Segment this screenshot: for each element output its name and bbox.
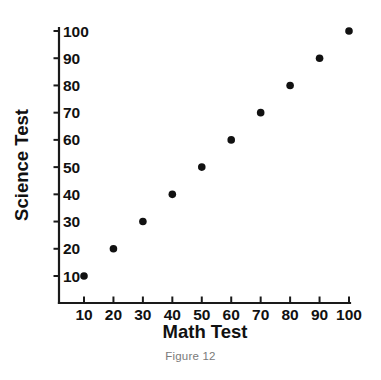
y-tick-label-50: 50 xyxy=(63,159,80,176)
y-axis-tick-labels: 102030405060708090100 xyxy=(63,23,89,285)
data-point-series xyxy=(80,27,353,280)
data-point xyxy=(257,109,265,117)
data-point xyxy=(316,54,324,62)
data-point xyxy=(169,191,177,199)
y-tick-label-30: 30 xyxy=(63,213,80,230)
x-tick-label-20: 20 xyxy=(105,306,122,323)
x-tick-label-80: 80 xyxy=(281,306,298,323)
x-tick-label-30: 30 xyxy=(134,306,151,323)
x-tick-label-90: 90 xyxy=(311,306,328,323)
data-point xyxy=(227,136,235,144)
x-tick-label-70: 70 xyxy=(252,306,269,323)
x-axis-title: Math Test xyxy=(163,321,248,342)
figure-container: 102030405060708090100 102030405060708090… xyxy=(0,0,381,380)
data-point xyxy=(198,163,206,171)
y-tick-label-80: 80 xyxy=(63,77,80,94)
y-tick-label-20: 20 xyxy=(63,240,80,257)
y-axis-title: Science Test xyxy=(11,109,32,221)
x-tick-label-10: 10 xyxy=(75,306,92,323)
data-point xyxy=(286,82,294,90)
y-tick-label-70: 70 xyxy=(63,104,80,121)
data-point xyxy=(345,27,353,35)
y-tick-label-100: 100 xyxy=(63,23,89,40)
data-point xyxy=(139,218,147,226)
data-point xyxy=(80,272,88,280)
x-tick-label-100: 100 xyxy=(336,306,362,323)
y-tick-label-40: 40 xyxy=(63,186,80,203)
scatter-plot: 102030405060708090100 102030405060708090… xyxy=(0,0,381,380)
figure-caption: Figure 12 xyxy=(0,350,381,362)
y-tick-label-10: 10 xyxy=(63,268,80,285)
y-tick-label-90: 90 xyxy=(63,50,80,67)
y-tick-label-60: 60 xyxy=(63,131,80,148)
data-point xyxy=(110,245,118,253)
